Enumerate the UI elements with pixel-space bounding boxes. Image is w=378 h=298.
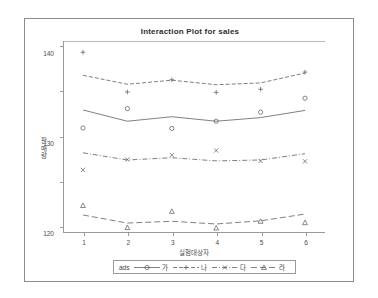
data-point-circle (81, 126, 85, 130)
legend-entry-3[interactable]: 라 (251, 262, 286, 272)
x-axis-tick-label: 2 (127, 239, 131, 246)
legend-label: 가 (162, 262, 168, 272)
x-axis-tick-label: 5 (260, 239, 264, 246)
y-axis-tick-label: 120 (43, 230, 54, 237)
series-line (83, 214, 305, 224)
data-point-cross (214, 148, 218, 152)
x-axis-tick-label: 6 (304, 239, 308, 246)
legend-key-plus (173, 263, 199, 272)
y-axis-tick-label: 140 (43, 49, 54, 56)
x-axis-tick-label: 3 (171, 239, 175, 246)
data-point-plus (169, 77, 174, 82)
plot-series-layer (63, 41, 325, 233)
legend-label: 다 (240, 262, 246, 272)
legend-label: 라 (279, 262, 285, 272)
series-line (83, 153, 305, 161)
chart-title: Interaction Plot for sales (25, 27, 355, 36)
legend-entry-0[interactable]: 가 (134, 262, 169, 272)
data-point-cross (170, 153, 174, 157)
data-point-circle (303, 96, 307, 100)
series-0 (81, 96, 307, 130)
series-3 (81, 203, 308, 230)
legend-entry-1[interactable]: 나 (173, 262, 208, 272)
data-point-plus (184, 265, 189, 270)
data-point-plus (303, 70, 308, 75)
data-point-triangle (81, 203, 86, 208)
data-point-circle (170, 126, 174, 130)
legend-key-triangle (251, 263, 277, 272)
x-axis-tick-label: 1 (82, 239, 86, 246)
data-point-cross (81, 168, 85, 172)
data-point-plus (81, 50, 86, 55)
data-point-plus (214, 90, 219, 95)
data-point-triangle (125, 225, 130, 230)
series-2 (81, 148, 307, 172)
data-point-plus (125, 90, 130, 95)
series-1 (81, 50, 308, 95)
legend-title: ads (119, 264, 129, 271)
data-point-triangle (303, 220, 308, 225)
series-line (83, 73, 305, 85)
data-point-plus (258, 87, 263, 92)
y-axis-label: 판매량 (39, 137, 49, 160)
data-point-triangle (169, 209, 174, 214)
x-axis-label: 실험대상자 (63, 247, 325, 257)
data-point-circle (259, 110, 263, 114)
data-point-cross (303, 159, 307, 163)
chart-legend[interactable]: ads 가나다라 (113, 260, 296, 274)
legend-entry-2[interactable]: 다 (212, 262, 247, 272)
legend-key-circle (134, 263, 160, 272)
legend-key-cross (212, 263, 238, 272)
data-point-cross (259, 159, 263, 163)
plot-window: Interaction Plot for sales 1001101201301… (24, 18, 354, 282)
legend-label: 나 (201, 262, 207, 272)
series-line (83, 110, 305, 121)
data-point-circle (125, 107, 129, 111)
x-axis-tick-label: 4 (215, 239, 219, 246)
data-point-triangle (214, 226, 219, 231)
